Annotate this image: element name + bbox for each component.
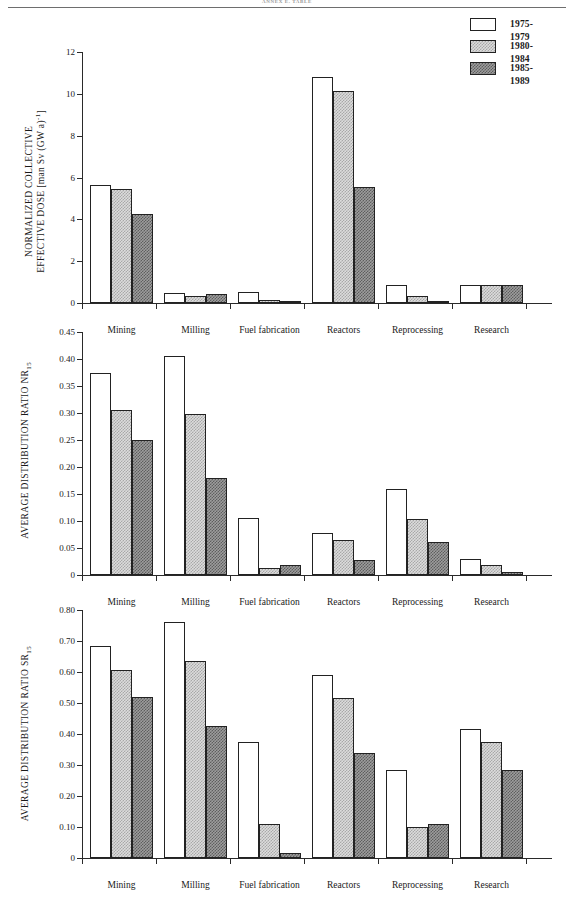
y-tick-3-7 bbox=[77, 641, 82, 642]
y-tick-1-2 bbox=[77, 219, 82, 220]
bar-reactors-1985-1989 bbox=[354, 753, 375, 858]
y-tick-label: 0 bbox=[71, 854, 76, 863]
bar-mining-1980-1984 bbox=[111, 670, 132, 858]
y-tick-2-4 bbox=[77, 467, 82, 468]
y-tick-label: 0.80 bbox=[59, 606, 75, 615]
bar-research-1975-1979 bbox=[460, 559, 481, 575]
y-axis-line-1 bbox=[82, 52, 83, 303]
y-tick-3-4 bbox=[77, 734, 82, 735]
plot-area-3: 00.100.200.300.400.500.600.700.80MiningM… bbox=[82, 610, 552, 858]
bar-reactors-1985-1989 bbox=[354, 187, 375, 303]
y-tick-label: 12 bbox=[66, 48, 75, 57]
bar-fuel-fabrication-1980-1984 bbox=[259, 300, 280, 303]
bar-research-1980-1984 bbox=[481, 285, 502, 303]
y-tick-label: 0.10 bbox=[59, 517, 75, 526]
x-group-separator bbox=[230, 858, 231, 864]
legend-swatch-white bbox=[470, 18, 496, 31]
bar-reactors-1975-1979 bbox=[312, 533, 333, 575]
bar-reactors-1980-1984 bbox=[333, 91, 354, 303]
y-axis-title-3: AVERAGE DISTRIBUTION RATIO SR15 bbox=[20, 646, 33, 821]
x-axis-line-3 bbox=[82, 858, 552, 859]
plot-area-1: 024681012MiningMillingFuel fabricationRe… bbox=[82, 52, 552, 303]
y-tick-label: 0.35 bbox=[59, 382, 75, 391]
bar-milling-1975-1979 bbox=[164, 622, 185, 858]
y-tick-1-5 bbox=[77, 94, 82, 95]
bar-research-1980-1984 bbox=[481, 565, 502, 575]
y-tick-1-6 bbox=[77, 52, 82, 53]
bar-research-1980-1984 bbox=[481, 742, 502, 858]
y-tick-label: 0.50 bbox=[59, 699, 75, 708]
y-axis-title-text: AVERAGE DISTRIBUTION RATIO NR15 bbox=[20, 362, 30, 539]
bar-milling-1975-1979 bbox=[164, 293, 185, 303]
y-tick-3-3 bbox=[77, 765, 82, 766]
x-group-separator bbox=[230, 575, 231, 581]
y-tick-label: 0.10 bbox=[59, 823, 75, 832]
y-tick-3-1 bbox=[77, 827, 82, 828]
bar-reprocessing-1975-1979 bbox=[386, 489, 407, 575]
bar-milling-1985-1989 bbox=[206, 478, 227, 575]
x-group-separator bbox=[304, 303, 305, 309]
legend-label: 1985-1989 bbox=[510, 62, 533, 88]
y-tick-label: 0.40 bbox=[59, 730, 75, 739]
bar-reactors-1980-1984 bbox=[333, 540, 354, 575]
y-tick-label: 0.15 bbox=[59, 490, 75, 499]
y-tick-3-6 bbox=[77, 672, 82, 673]
y-axis-line-2 bbox=[82, 332, 83, 575]
bar-fuel-fabrication-1980-1984 bbox=[259, 568, 280, 575]
y-tick-label: 0.30 bbox=[59, 761, 75, 770]
x-group-separator bbox=[230, 303, 231, 309]
y-tick-2-2 bbox=[77, 521, 82, 522]
bar-reprocessing-1980-1984 bbox=[407, 827, 428, 858]
y-tick-label: 2 bbox=[71, 257, 76, 266]
bar-research-1985-1989 bbox=[502, 572, 523, 575]
chart-panel-2: 00.050.100.150.200.250.300.350.400.45Min… bbox=[0, 322, 574, 600]
chart-panel-3: 00.100.200.300.400.500.600.700.80MiningM… bbox=[0, 600, 574, 890]
y-tick-1-1 bbox=[77, 261, 82, 262]
x-axis-label-fuel-fabrication: Fuel fabrication bbox=[239, 880, 299, 890]
x-group-separator bbox=[156, 858, 157, 864]
x-group-separator bbox=[82, 575, 83, 581]
bar-research-1985-1989 bbox=[502, 285, 523, 303]
y-axis-title-line2: EFFECTIVE DOSE [man Sv (GW a)-1] bbox=[34, 110, 46, 273]
y-tick-label: 0.05 bbox=[59, 544, 75, 553]
legend-swatch-light-stipple bbox=[470, 40, 496, 53]
x-axis-label-reactors: Reactors bbox=[327, 880, 360, 890]
y-tick-label: 0.25 bbox=[59, 436, 75, 445]
y-tick-label: 0.70 bbox=[59, 637, 75, 646]
bar-reprocessing-1975-1979 bbox=[386, 770, 407, 858]
x-group-separator bbox=[378, 858, 379, 864]
y-tick-2-6 bbox=[77, 413, 82, 414]
bar-research-1975-1979 bbox=[460, 285, 481, 303]
y-tick-2-5 bbox=[77, 440, 82, 441]
bar-fuel-fabrication-1980-1984 bbox=[259, 824, 280, 858]
bar-mining-1980-1984 bbox=[111, 189, 132, 303]
bar-mining-1985-1989 bbox=[132, 214, 153, 303]
y-tick-1-4 bbox=[77, 136, 82, 137]
bar-fuel-fabrication-1975-1979 bbox=[238, 292, 259, 304]
bar-mining-1975-1979 bbox=[90, 185, 111, 303]
bar-research-1975-1979 bbox=[460, 729, 481, 858]
x-axis-line-2 bbox=[82, 575, 552, 576]
bar-reprocessing-1985-1989 bbox=[428, 824, 449, 858]
bar-research-1985-1989 bbox=[502, 770, 523, 858]
bar-mining-1975-1979 bbox=[90, 373, 111, 576]
bar-reactors-1980-1984 bbox=[333, 698, 354, 858]
y-axis-title-line1: NORMALIZED COLLECTIVE bbox=[24, 110, 34, 273]
bar-mining-1985-1989 bbox=[132, 697, 153, 858]
bar-mining-1975-1979 bbox=[90, 646, 111, 858]
bar-fuel-fabrication-1985-1989 bbox=[280, 565, 301, 575]
x-group-separator bbox=[82, 858, 83, 864]
x-group-separator bbox=[526, 858, 527, 864]
x-group-separator bbox=[82, 303, 83, 309]
bar-milling-1975-1979 bbox=[164, 356, 185, 575]
x-group-separator bbox=[526, 303, 527, 309]
bar-mining-1985-1989 bbox=[132, 440, 153, 575]
y-tick-2-1 bbox=[77, 548, 82, 549]
x-group-separator bbox=[526, 575, 527, 581]
y-tick-3-5 bbox=[77, 703, 82, 704]
x-axis-label-mining: Mining bbox=[108, 880, 136, 890]
x-group-separator bbox=[156, 303, 157, 309]
y-axis-line-3 bbox=[82, 610, 83, 858]
y-tick-2-7 bbox=[77, 386, 82, 387]
bar-milling-1985-1989 bbox=[206, 726, 227, 858]
